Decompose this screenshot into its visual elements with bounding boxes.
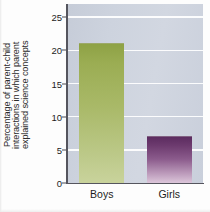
y-axis-tick-label: 25: [51, 12, 62, 23]
bar-girls: [147, 136, 192, 183]
x-axis-category-label-girls: Girls: [158, 188, 180, 200]
paper-edge-bottom: [0, 209, 210, 212]
gridline: [68, 16, 203, 18]
y-axis-title: Percentage of parent-child interactions …: [0, 0, 44, 190]
y-axis-tick-label: 10: [51, 111, 62, 122]
x-axis-category-labels: BoysGirls: [68, 188, 203, 208]
bar-chart-figure: Percentage of parent-child interactions …: [0, 0, 210, 212]
plot-area: [68, 4, 203, 183]
x-axis-category-label-boys: Boys: [90, 188, 113, 200]
y-axis-title-line-3: explained science concepts: [21, 0, 30, 190]
bar-boys: [79, 43, 124, 183]
y-axis-tick-labels: 0510152025: [42, 0, 62, 190]
x-axis-line: [66, 183, 204, 184]
y-axis-tick-label: 20: [51, 45, 62, 56]
y-axis-tick-label: 15: [51, 78, 62, 89]
